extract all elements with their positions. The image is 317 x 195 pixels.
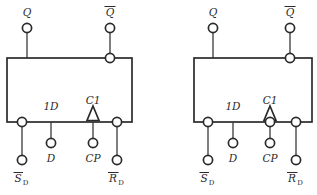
- left-sd-subscript: D: [23, 179, 29, 187]
- right-q-label: Q: [209, 6, 218, 19]
- right-d-terminal[interactable]: [228, 138, 237, 147]
- right-rd-terminal[interactable]: [291, 155, 300, 164]
- right-c-inner-label: C1: [263, 94, 278, 106]
- left-q-terminal[interactable]: [22, 23, 31, 32]
- right-flipflop-body: [194, 58, 312, 122]
- right-cp-label: CP: [262, 152, 278, 164]
- right-q-terminal[interactable]: [208, 23, 217, 32]
- right-flipflop: Q Q 1D C1 D CP S D R D: [194, 6, 312, 187]
- right-cp-terminal[interactable]: [265, 138, 274, 147]
- left-qbar-label: Q: [106, 6, 115, 19]
- left-d-label: D: [46, 152, 56, 164]
- left-d-terminal[interactable]: [46, 138, 55, 147]
- right-qbar-terminal[interactable]: [285, 23, 294, 32]
- right-rd-label: R: [287, 172, 296, 184]
- logic-diagram-svg: Q Q 1D C1 D CP S D R D: [0, 0, 317, 195]
- schematic-canvas: Q Q 1D C1 D CP S D R D: [0, 0, 317, 195]
- left-cp-label: CP: [85, 152, 101, 164]
- right-qbar-inverting-bubble: [285, 53, 294, 62]
- right-sd-subscript: D: [209, 179, 215, 187]
- right-sd-label: S: [200, 172, 207, 184]
- left-sd-inverting-bubble: [17, 117, 26, 126]
- left-flipflop-body: [7, 58, 132, 122]
- right-d-inner-label: 1D: [225, 100, 241, 112]
- right-cp-inverting-bubble: [265, 117, 274, 126]
- left-qbar-inverting-bubble: [105, 53, 114, 62]
- left-sd-terminal[interactable]: [17, 155, 26, 164]
- left-rd-inverting-bubble: [112, 117, 121, 126]
- left-dynamic-input-triangle: [87, 106, 99, 121]
- left-d-inner-label: 1D: [43, 100, 59, 112]
- right-d-label: D: [228, 152, 238, 164]
- right-rd-subscript: D: [297, 179, 303, 187]
- left-rd-label: R: [108, 172, 117, 184]
- left-qbar-terminal[interactable]: [105, 23, 114, 32]
- right-sd-terminal[interactable]: [203, 155, 212, 164]
- left-sd-label: S: [14, 172, 21, 184]
- right-rd-inverting-bubble: [291, 117, 300, 126]
- left-rd-terminal[interactable]: [112, 155, 121, 164]
- left-flipflop: Q Q 1D C1 D CP S D R D: [7, 6, 132, 187]
- right-qbar-label: Q: [286, 6, 295, 19]
- left-rd-subscript: D: [118, 179, 124, 187]
- left-q-label: Q: [23, 6, 32, 19]
- right-sd-inverting-bubble: [203, 117, 212, 126]
- left-cp-terminal[interactable]: [88, 138, 97, 147]
- left-c-inner-label: C1: [86, 94, 101, 106]
